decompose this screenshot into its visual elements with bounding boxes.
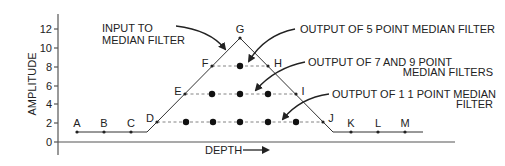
- point-label-c: C: [127, 117, 135, 129]
- y-ticks: 12 10 8 6 4 2 0: [40, 23, 58, 148]
- y-tick-label: 8: [46, 61, 52, 73]
- out5-arrow-icon: [249, 29, 295, 61]
- annotation-input-line1: INPUT TO: [102, 22, 153, 34]
- point-label-j: J: [328, 112, 334, 124]
- out11-arrow-icon: [283, 94, 329, 119]
- point-label-h: H: [274, 57, 282, 69]
- point-label-m: M: [400, 117, 409, 129]
- point-label-e: E: [174, 85, 181, 97]
- point-label-f: F: [202, 57, 209, 69]
- annotation-out5-text: OUTPUT OF 5 POINT MEDIAN FILTER: [300, 23, 495, 35]
- y-tick-label: 10: [40, 42, 52, 54]
- annotation-input-line2: MEDIAN FILTER: [102, 34, 185, 46]
- point-label-i: I: [301, 85, 304, 97]
- y-tick-label: 0: [46, 136, 52, 148]
- y-tick-label: 6: [46, 80, 52, 92]
- annotation-out79-line2: MEDIAN FILTERS: [403, 66, 493, 78]
- x-axis-label: DEPTH: [205, 144, 242, 156]
- annotation-out11-line2: FILTER: [456, 98, 493, 110]
- y-axis-label: AMPLITUDE: [26, 53, 38, 116]
- median-output-dots: [183, 63, 299, 125]
- point-label-k: K: [347, 117, 355, 129]
- y-tick-label: 4: [46, 98, 52, 110]
- point-label-g: G: [236, 23, 245, 35]
- median-filter-diagram: 12 10 8 6 4 2 0 AMPLITUDE DEPTH: [0, 0, 505, 166]
- point-label-d: D: [146, 112, 154, 124]
- point-label-l: L: [375, 117, 381, 129]
- point-label-b: B: [100, 117, 107, 129]
- annotation-out79: OUTPUT OF 7 AND 9 POINT MEDIAN FILTERS: [256, 56, 493, 90]
- point-label-a: A: [73, 117, 81, 129]
- annotation-input: INPUT TO MEDIAN FILTER: [102, 22, 225, 49]
- y-tick-label: 2: [46, 117, 52, 129]
- y-tick-label: 12: [40, 23, 52, 35]
